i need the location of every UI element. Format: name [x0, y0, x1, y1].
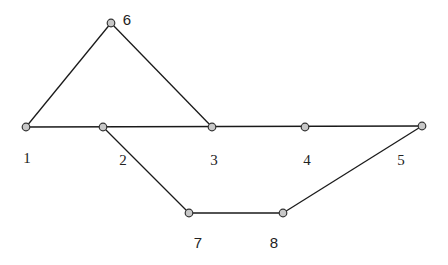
- edge-2-7: [103, 127, 189, 213]
- node-label-5: 5: [397, 152, 405, 168]
- node-label-6: 6: [123, 11, 131, 28]
- node-4: [301, 123, 309, 131]
- node-6: [107, 19, 115, 27]
- node-label-2: 2: [119, 152, 127, 168]
- graph-svg: 12345678: [0, 0, 448, 265]
- node-label-1: 1: [23, 150, 31, 166]
- nodes-group: [22, 19, 426, 217]
- edge-1-6: [26, 23, 111, 127]
- node-label-8: 8: [270, 234, 278, 251]
- node-2: [99, 123, 107, 131]
- node-5: [418, 122, 426, 130]
- node-8: [279, 209, 287, 217]
- edges-group: [26, 23, 422, 213]
- node-label-3: 3: [210, 152, 218, 168]
- edge-8-5: [283, 126, 422, 213]
- graph-diagram: 12345678: [0, 0, 448, 265]
- node-label-4: 4: [303, 152, 311, 168]
- node-7: [185, 209, 193, 217]
- node-1: [22, 123, 30, 131]
- edge-6-3: [111, 23, 212, 127]
- node-3: [208, 123, 216, 131]
- labels-group: 12345678: [23, 11, 405, 251]
- edge-1-5: [26, 126, 422, 127]
- node-label-7: 7: [194, 234, 202, 251]
